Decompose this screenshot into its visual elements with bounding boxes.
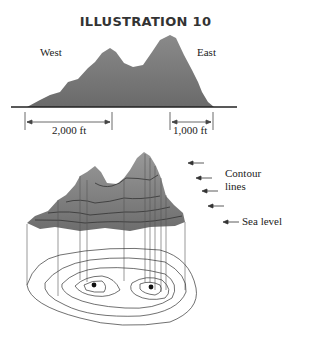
east-peak-marker xyxy=(149,285,154,290)
east-label: East xyxy=(197,46,216,58)
contour-label-line2: lines xyxy=(225,180,246,192)
topographic-map xyxy=(27,248,196,325)
contour-label-line1: Contour xyxy=(225,167,261,179)
sea-level-label: Sea level xyxy=(242,215,282,227)
dimension-right-label: 1,000 ft xyxy=(173,124,207,136)
west-label: West xyxy=(40,46,62,58)
dimension-left-label: 2,000 ft xyxy=(52,124,86,136)
west-peak-marker xyxy=(92,283,97,288)
